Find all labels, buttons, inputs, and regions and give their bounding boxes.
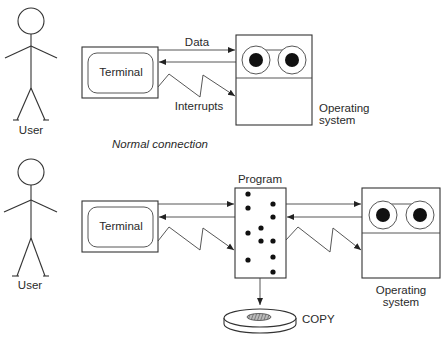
operating-system-box [362, 188, 440, 278]
connection-diagram: User Terminal Data Interrupts Operating … [0, 0, 445, 342]
user-stick-figure-icon [5, 8, 57, 120]
interrupts-zigzag-arrow [286, 227, 361, 252]
user-label: User [18, 279, 42, 291]
copy-label: COPY [302, 313, 335, 325]
terminal-label: Terminal [99, 220, 142, 232]
user-stick-figure-icon [4, 159, 57, 276]
bottom-diagram: User Terminal Program [4, 159, 440, 333]
program-dots [245, 191, 275, 274]
tape-reel-icon [285, 53, 299, 67]
user-label: User [19, 124, 43, 136]
os-label-line2: system [383, 296, 419, 308]
operating-system-box [236, 35, 312, 125]
terminal-label: Terminal [99, 66, 142, 78]
interrupts-label: Interrupts [175, 100, 224, 112]
program-label: Program [238, 173, 282, 185]
tape-reel-icon [249, 53, 263, 67]
tape-reel-icon [376, 208, 390, 222]
os-label-line1: Operating [319, 102, 370, 114]
os-label-line2: system [319, 114, 355, 126]
top-diagram: User Terminal Data Interrupts Operating … [5, 8, 370, 150]
os-label-line1: Operating [376, 284, 427, 296]
interrupts-zigzag-arrow [158, 74, 235, 97]
caption-normal-connection: Normal connection [112, 138, 208, 150]
tape-reel-icon [413, 208, 427, 222]
data-label: Data [185, 36, 210, 48]
disk-icon [224, 309, 296, 333]
interrupts-zigzag-arrow [158, 227, 234, 250]
program-box [235, 188, 286, 278]
